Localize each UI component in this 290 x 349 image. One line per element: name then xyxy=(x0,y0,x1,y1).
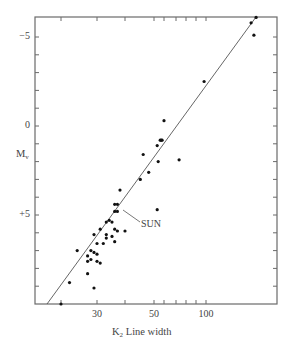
data-point xyxy=(99,262,102,265)
x-axis-title: K2 Line width xyxy=(112,326,172,339)
data-point xyxy=(156,144,159,147)
data-point xyxy=(105,221,108,224)
data-point xyxy=(255,16,258,19)
x-axis-title-rest: Line width xyxy=(123,326,171,337)
data-point xyxy=(142,153,145,156)
sun-label: SUN xyxy=(141,218,161,229)
data-point xyxy=(86,260,89,263)
data-point xyxy=(86,272,89,275)
data-point xyxy=(113,228,116,231)
data-point xyxy=(92,286,95,289)
data-point xyxy=(178,158,181,161)
x-axis-title-main: K xyxy=(112,326,120,337)
sun-annotation-leader xyxy=(123,210,140,222)
data-point xyxy=(92,233,95,236)
data-point xyxy=(92,251,95,254)
data-point xyxy=(89,249,92,252)
y-tick-label: −5 xyxy=(6,30,30,41)
data-point xyxy=(105,233,108,236)
y-tick-label: 0 xyxy=(6,119,30,130)
data-point xyxy=(203,80,206,83)
data-point xyxy=(123,229,126,232)
data-point xyxy=(86,254,89,257)
data-point xyxy=(59,302,62,305)
data-point xyxy=(157,160,160,163)
y-axis-ticks xyxy=(35,37,277,286)
data-point xyxy=(105,237,108,240)
data-point xyxy=(250,21,253,24)
sun-label-text: SUN xyxy=(141,218,161,229)
data-point xyxy=(76,249,79,252)
x-tick-label: 50 xyxy=(139,308,169,319)
fit-line xyxy=(47,17,256,304)
data-point xyxy=(147,171,150,174)
data-point xyxy=(89,258,92,261)
data-point xyxy=(95,242,98,245)
x-axis-ticks xyxy=(61,17,206,304)
plot-frame xyxy=(35,17,277,304)
data-point xyxy=(118,189,121,192)
data-point xyxy=(108,219,111,222)
data-point xyxy=(116,229,119,232)
data-point xyxy=(102,242,105,245)
y-axis-title-sub: v xyxy=(25,153,29,161)
data-points xyxy=(59,16,257,306)
data-point xyxy=(95,260,98,263)
data-point xyxy=(95,253,98,256)
data-point xyxy=(110,235,113,238)
x-tick-label: 30 xyxy=(82,308,112,319)
data-point xyxy=(68,281,71,284)
data-point xyxy=(156,208,159,211)
y-axis-title: Mv xyxy=(16,148,29,161)
data-point xyxy=(110,221,113,224)
y-tick-label: +5 xyxy=(6,208,30,219)
data-point xyxy=(162,119,165,122)
data-point xyxy=(99,228,102,231)
data-point xyxy=(116,203,119,206)
x-tick-label: 100 xyxy=(191,308,221,319)
data-point xyxy=(113,240,116,243)
data-point xyxy=(159,139,162,142)
y-axis-title-main: M xyxy=(16,148,25,159)
data-point xyxy=(116,210,119,213)
data-point xyxy=(252,34,255,37)
data-point xyxy=(139,178,142,181)
chart-canvas xyxy=(0,0,290,349)
